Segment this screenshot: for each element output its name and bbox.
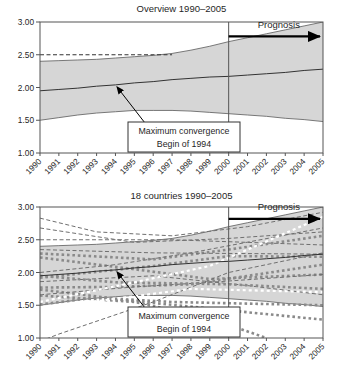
x-tick-label: 1995 xyxy=(118,156,138,176)
x-tick-label: 1996 xyxy=(136,156,156,176)
x-tick-label: 2005 xyxy=(306,341,326,361)
note-text-line: Maximum convergence xyxy=(139,126,230,136)
x-tick-label: 2001 xyxy=(231,341,251,361)
x-tick-label: 1998 xyxy=(174,341,194,361)
y-tick-label: 1.00 xyxy=(18,333,35,343)
note-text-line: Maximum convergence xyxy=(139,311,230,321)
note-text-line: Begin of 1994 xyxy=(157,139,211,149)
x-tick-label: 2003 xyxy=(269,341,289,361)
x-tick-label: 1992 xyxy=(61,341,81,361)
x-tick-label: 1990 xyxy=(23,341,43,361)
note-text-line: Begin of 1994 xyxy=(157,324,211,334)
x-tick-label: 1997 xyxy=(155,156,175,176)
y-tick-label: 3.00 xyxy=(18,202,35,212)
x-tick-label: 1995 xyxy=(118,341,138,361)
x-tick-label: 1992 xyxy=(61,156,81,176)
x-tick-label: 2004 xyxy=(287,341,307,361)
x-tick-label: 1994 xyxy=(99,156,119,176)
y-tick-label: 3.00 xyxy=(18,17,35,27)
x-tick-label: 2001 xyxy=(231,156,251,176)
x-tick-label: 2004 xyxy=(287,156,307,176)
x-tick-label: 1999 xyxy=(193,156,213,176)
y-tick-label: 2.50 xyxy=(18,50,35,60)
x-tick-label: 2005 xyxy=(306,156,326,176)
y-tick-label: 1.00 xyxy=(18,148,35,158)
x-tick-label: 1996 xyxy=(136,341,156,361)
countries-chart: PrognosisMaximum convergenceBegin of 199… xyxy=(0,188,349,373)
y-tick-label: 2.00 xyxy=(18,83,35,93)
x-tick-label: 1991 xyxy=(42,341,62,361)
y-tick-label: 2.50 xyxy=(18,235,35,245)
prognosis-label: Prognosis xyxy=(258,201,300,212)
x-tick-label: 2003 xyxy=(269,156,289,176)
x-tick-label: 1994 xyxy=(99,341,119,361)
prognosis-label: Prognosis xyxy=(258,19,300,30)
x-tick-label: 1999 xyxy=(193,341,213,361)
x-tick-label: 2002 xyxy=(250,156,270,176)
x-tick-label: 2000 xyxy=(212,156,232,176)
y-tick-label: 2.00 xyxy=(18,268,35,278)
x-tick-label: 1993 xyxy=(80,156,100,176)
x-tick-label: 1998 xyxy=(174,156,194,176)
x-tick-label: 2000 xyxy=(212,341,232,361)
figure-two-panel-chart: Overview 1990–2005 PrognosisMaximum conv… xyxy=(0,0,349,373)
x-tick-label: 2002 xyxy=(250,341,270,361)
x-tick-label: 1991 xyxy=(42,156,62,176)
x-tick-label: 1990 xyxy=(23,156,43,176)
x-tick-label: 1997 xyxy=(155,341,175,361)
y-tick-label: 1.50 xyxy=(18,115,35,125)
x-tick-label: 1993 xyxy=(80,341,100,361)
overview-chart: PrognosisMaximum convergenceBegin of 199… xyxy=(0,0,349,188)
y-tick-label: 1.50 xyxy=(18,300,35,310)
